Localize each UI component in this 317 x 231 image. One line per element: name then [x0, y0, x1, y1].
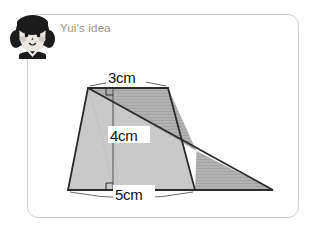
speaker-label: Yui's idea [58, 21, 115, 35]
dimension-label-height: 4cm [110, 127, 137, 144]
idea-panel [27, 14, 299, 218]
page-root: Yui's idea [0, 0, 317, 231]
dimension-label-top: 3cm [108, 69, 135, 86]
girl-avatar-icon [9, 9, 56, 59]
dimension-label-bottom: 5cm [115, 186, 142, 203]
